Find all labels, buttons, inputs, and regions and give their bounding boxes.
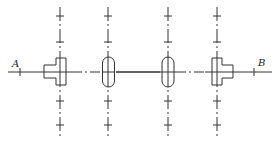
label-b: B	[257, 57, 265, 68]
alignment-diagram: A B	[0, 0, 279, 148]
label-a: A	[11, 58, 19, 69]
vertical-ticks	[56, 16, 221, 125]
